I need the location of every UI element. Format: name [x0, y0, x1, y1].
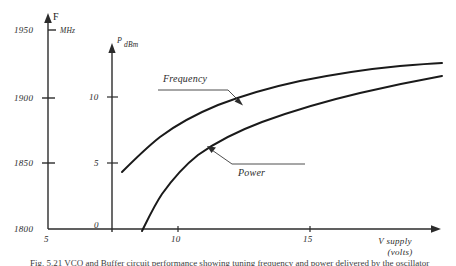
left-axis-group: 1950 1900 1850 1800 F MHz: [14, 11, 75, 234]
inner-axis-unit: dBm: [124, 40, 139, 49]
power-annotation: Power: [207, 146, 305, 178]
left-tick-label-1950: 1950: [14, 25, 33, 35]
left-tick-label-1800: 1800: [14, 224, 33, 234]
inner-axis-name: P: [116, 36, 122, 45]
x-axis-unit: (volts): [387, 247, 412, 257]
chart-canvas: 1950 1900 1850 1800 F MHz 10 5 0 P dBm 5: [0, 0, 456, 266]
inner-tick-label-10: 10: [89, 92, 99, 102]
power-curve: [142, 76, 442, 231]
inner-tick-label-5: 5: [94, 158, 99, 168]
left-tick-label-1900: 1900: [14, 93, 33, 103]
bottom-tick-label-10: 10: [171, 234, 181, 244]
figure-caption-clipped: Fig. 5.21 VCO and Buffer circuit perform…: [0, 258, 456, 266]
inner-axis-group: 10 5 0 P dBm: [89, 36, 139, 232]
power-leader-line: [209, 148, 305, 164]
bottom-axis-group: 5 10 15 V supply (volts): [44, 225, 441, 257]
bottom-tick-label-15: 15: [303, 234, 313, 244]
curves-group: [122, 63, 442, 231]
left-axis-name: F: [53, 11, 59, 22]
figure-root: 1950 1900 1850 1800 F MHz 10 5 0 P dBm 5: [0, 0, 456, 266]
power-label: Power: [237, 167, 265, 178]
frequency-label: Frequency: [162, 73, 208, 84]
left-axis-unit: MHz: [59, 26, 75, 35]
inner-axis-arrow-icon: [108, 43, 115, 53]
left-tick-label-1850: 1850: [14, 158, 33, 168]
bottom-axis-arrow-icon: [431, 225, 441, 233]
bottom-tick-label-5: 5: [44, 234, 49, 244]
left-axis-arrow-icon: [44, 13, 52, 23]
x-axis-title: V supply: [378, 236, 411, 246]
figure-caption-text: Fig. 5.21 VCO and Buffer circuit perform…: [0, 258, 456, 266]
